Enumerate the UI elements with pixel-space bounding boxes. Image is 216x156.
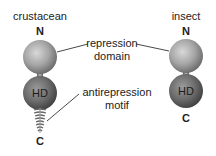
- antirepression-label-line1: antirepression: [82, 86, 151, 98]
- crustacean-title: crustacean: [13, 10, 67, 22]
- crustacean-c-terminus: C: [36, 135, 44, 147]
- insect-protein: insect N HD C: [169, 10, 203, 124]
- homeodomain-protein-diagram: crustacean N HD C insect N HD C: [0, 0, 216, 156]
- insect-hd-label: HD: [178, 85, 194, 97]
- crustacean-antirepression-coil: [34, 108, 46, 133]
- insect-n-terminus: N: [182, 25, 190, 37]
- insect-title: insect: [172, 10, 201, 22]
- repression-label-line1: repression: [86, 37, 137, 49]
- repression-leader-line-right: [136, 44, 169, 51]
- crustacean-hd-label: HD: [32, 87, 48, 99]
- insect-repression-domain-sphere: [169, 39, 203, 73]
- antirepression-motif-annotation: antirepression motif: [47, 86, 152, 121]
- crustacean-protein: crustacean N HD C: [13, 10, 67, 147]
- crustacean-repression-domain-sphere: [23, 40, 57, 74]
- insect-c-terminus: C: [182, 112, 190, 124]
- antirepression-label-line2: motif: [105, 99, 130, 111]
- repression-domain-annotation: repression domain: [57, 37, 169, 62]
- repression-label-line2: domain: [94, 50, 130, 62]
- repression-leader-line-left: [57, 44, 88, 52]
- crustacean-n-terminus: N: [36, 25, 44, 37]
